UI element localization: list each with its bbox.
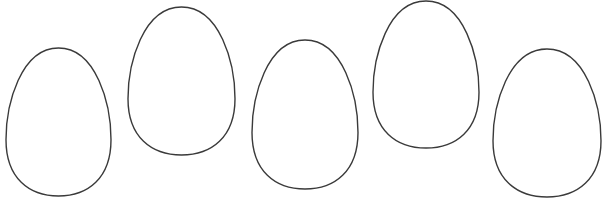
egg-group bbox=[6, 1, 601, 197]
egg-outline-4 bbox=[373, 1, 479, 148]
egg-outline-2 bbox=[128, 7, 235, 155]
egg-outlines-canvas bbox=[0, 0, 605, 204]
egg-outline-1 bbox=[6, 48, 111, 196]
egg-outline-3 bbox=[252, 40, 358, 189]
egg-outline-5 bbox=[493, 49, 601, 197]
